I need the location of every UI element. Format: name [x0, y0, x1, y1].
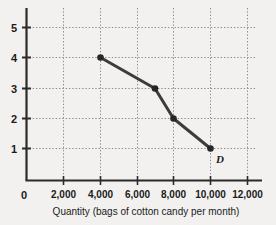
data-point-10000-1 [207, 145, 214, 152]
ytick-label-0: 0 [21, 189, 27, 201]
ytick-label-5: 5 [11, 22, 17, 34]
xtick-label-2000: 2,000 [51, 189, 76, 200]
data-point-7000-3 [152, 85, 159, 92]
demand-curve-label: D [215, 153, 224, 165]
xtick-label-6000: 6,000 [125, 189, 150, 200]
ytick-label-2: 2 [11, 113, 17, 125]
x-axis-title: Quantity (bags of cotton candy per month… [53, 206, 240, 217]
xtick-label-12000: 12,000 [232, 189, 263, 200]
xtick-label-10000: 10,000 [195, 189, 226, 200]
xtick-label-4000: 4,000 [88, 189, 113, 200]
data-point-4000-4 [97, 54, 104, 61]
ytick-label-1: 1 [11, 143, 17, 155]
ytick-label-4: 4 [11, 52, 18, 64]
data-point-8000-2 [170, 115, 177, 122]
chart-screenshot: 5 4 3 2 1 0 2,000 4,000 6,000 8,000 10,0… [0, 0, 276, 225]
xtick-label-8000: 8,000 [161, 189, 186, 200]
demand-curve-chart: 5 4 3 2 1 0 2,000 4,000 6,000 8,000 10,0… [0, 0, 276, 225]
ytick-label-3: 3 [11, 83, 17, 95]
